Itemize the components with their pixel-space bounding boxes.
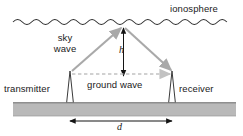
radio-propagation-diagram: ionosphere sky wave ground wave transmit…	[0, 0, 243, 136]
label-sky-wave: sky wave	[45, 33, 85, 54]
sky-wave-down-ray	[125, 28, 171, 70]
transmitter-antenna	[67, 71, 74, 103]
label-distance-symbol: d	[117, 122, 122, 133]
diagram-canvas	[0, 0, 243, 136]
ionosphere-wavy-line	[13, 20, 227, 25]
receiver-antenna	[169, 71, 176, 103]
label-sky-wave-line2: wave	[45, 44, 85, 55]
ground-band	[13, 103, 236, 117]
label-ionosphere: ionosphere	[170, 4, 218, 15]
label-height-symbol: h	[119, 45, 124, 56]
label-sky-wave-line1: sky	[45, 33, 85, 44]
label-transmitter: transmitter	[4, 84, 50, 95]
label-receiver: receiver	[179, 84, 214, 95]
label-ground-wave: ground wave	[87, 80, 143, 91]
